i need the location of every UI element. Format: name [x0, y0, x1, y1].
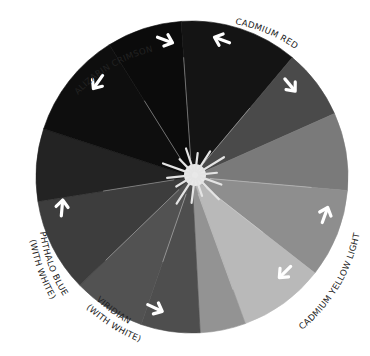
color-wheel: ALIZARIN CRIMSON CADMIUM RED CADMIUM YEL… — [0, 0, 370, 356]
color-wheel-figure: ALIZARIN CRIMSON CADMIUM RED CADMIUM YEL… — [0, 0, 370, 356]
